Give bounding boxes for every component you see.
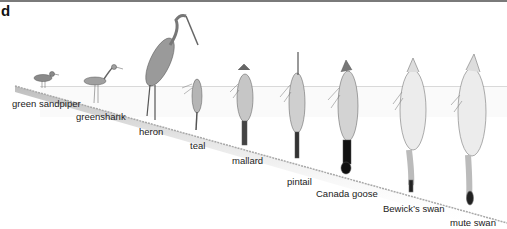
label-mallard: mallard (232, 155, 263, 166)
mute-swan-icon (451, 54, 486, 205)
label-mute-swan: mute swan (450, 217, 496, 228)
label-heron: heron (139, 126, 163, 137)
green-sandpiper-icon (34, 72, 59, 89)
label-green-sandpiper: green sandpiper (12, 98, 81, 109)
label-teal: teal (190, 140, 205, 151)
label-pintail: pintail (287, 176, 312, 187)
water-surface (40, 86, 507, 87)
bewicks-swan-icon (393, 58, 426, 192)
label-greenshank: greenshank (76, 111, 126, 122)
label-bewicks-swan: Bewick’s swan (383, 203, 445, 214)
label-canada-goose: Canada goose (316, 188, 378, 199)
